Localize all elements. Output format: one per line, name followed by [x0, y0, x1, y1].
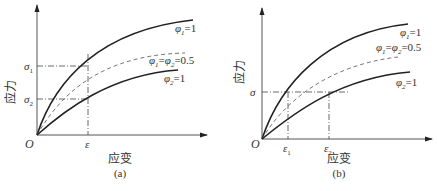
- caption-a: (a): [114, 167, 127, 180]
- tick-epsilon: ε: [85, 138, 90, 150]
- tick-sigma: σ: [250, 86, 256, 98]
- label-phi2-1: φ2=1: [164, 72, 185, 87]
- label-phi2-1: φ2=1: [396, 76, 417, 91]
- x-axis-title: 应变: [327, 151, 351, 166]
- label-phi1-1: φ1=1: [175, 22, 196, 37]
- y-axis-title: 应力: [232, 60, 247, 84]
- caption-b: (b): [333, 167, 346, 180]
- y-axis-title: 应力: [3, 80, 18, 104]
- curve-phi2-1: [262, 72, 410, 139]
- panel-b: φ1=1 φ1=φ2=0.5 φ2=1 σ ε1 ε2 O 应力 应变 (b): [232, 8, 432, 180]
- tick-sigma1: σ1: [24, 60, 33, 75]
- label-phi-half: φ1=φ2=0.5: [376, 41, 422, 56]
- origin-label: O: [251, 137, 260, 151]
- label-phi1-1: φ1=1: [400, 26, 421, 41]
- curve-phi2-1: [37, 70, 178, 135]
- origin-label: O: [25, 137, 34, 151]
- x-axis-title: 应变: [108, 151, 132, 166]
- tick-sigma2: σ2: [24, 93, 33, 108]
- label-phi-half: φ1=φ2=0.5: [149, 54, 195, 69]
- tick-epsilon1: ε1: [283, 142, 291, 157]
- stress-strain-figure: φ1=1 φ1=φ2=0.5 φ2=1 σ1 σ2 ε O 应力 应变 (a): [0, 0, 437, 191]
- panel-a: φ1=1 φ1=φ2=0.5 φ2=1 σ1 σ2 ε O 应力 应变 (a): [3, 5, 207, 180]
